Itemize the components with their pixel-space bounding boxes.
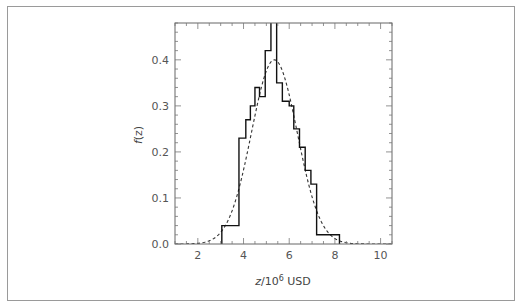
axes-box: [175, 23, 392, 244]
x-tick-label: 10: [374, 249, 388, 262]
x-tick-label: 6: [286, 249, 293, 262]
y-tick-label: 0.4: [152, 54, 170, 67]
normal-fit-curve: [175, 60, 392, 244]
y-tick-label: 0.2: [152, 146, 170, 159]
y-tick-label: 0.3: [152, 100, 170, 113]
x-tick-label: 4: [240, 249, 247, 262]
histogram-chart: 2468100.00.10.20.30.4 z/106 USD f(z): [0, 0, 523, 303]
y-tick-label: 0.1: [152, 192, 170, 205]
x-tick-label: 2: [194, 249, 201, 262]
plot-area: 2468100.00.10.20.30.4: [152, 18, 393, 262]
x-axis-label: z/106 USD: [254, 274, 311, 288]
x-tick-label: 8: [331, 249, 338, 262]
histogram-steps: [222, 18, 340, 244]
y-tick-label: 0.0: [152, 238, 170, 251]
y-axis-label: f(z): [132, 126, 145, 144]
